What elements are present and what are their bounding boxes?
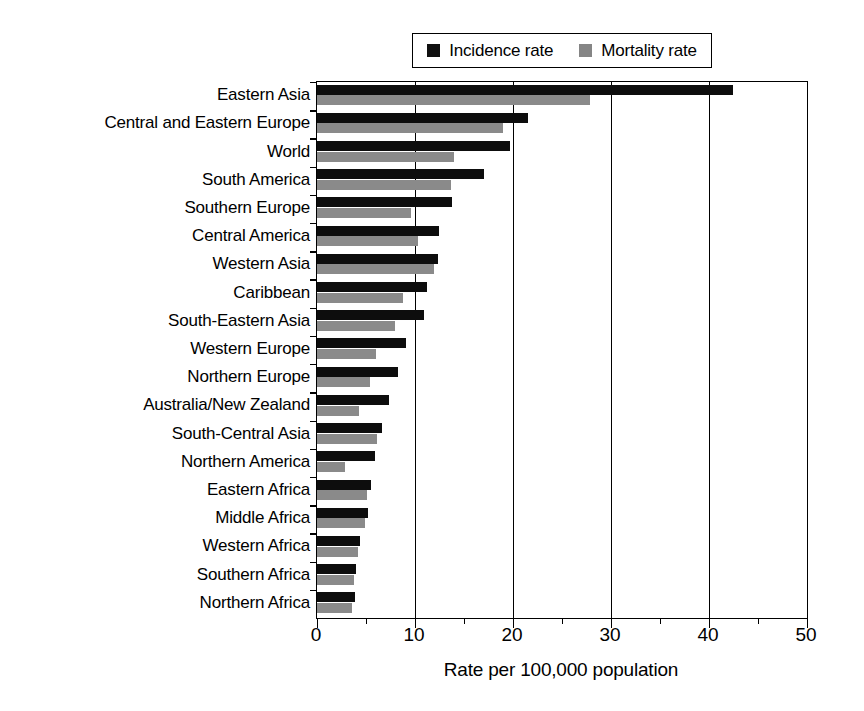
bar-mortality	[317, 547, 358, 557]
bar-group	[317, 251, 807, 279]
y-axis-label-south-eastern-asia: South-Eastern Asia	[10, 312, 310, 329]
y-axis-label-southern-africa: Southern Africa	[10, 566, 310, 583]
y-axis-tick	[310, 223, 317, 224]
x-axis-tick-label: 0	[286, 625, 346, 644]
y-axis-tick	[310, 336, 317, 337]
bar-mortality	[317, 490, 367, 500]
bar-group	[317, 505, 807, 533]
x-axis-tick-minor	[562, 618, 563, 624]
y-axis-tick	[310, 449, 317, 450]
y-axis-tick	[310, 392, 317, 393]
x-axis-tick-label: 50	[776, 625, 836, 644]
x-axis-tick-label: 20	[482, 625, 542, 644]
bar-incidence	[317, 113, 528, 123]
bar-incidence	[317, 197, 452, 207]
y-axis-tick	[310, 533, 317, 534]
bar-incidence	[317, 508, 368, 518]
y-axis-tick	[310, 308, 317, 309]
y-axis-tick	[310, 110, 317, 111]
bar-group	[317, 421, 807, 449]
y-axis-label-south-america: South America	[10, 171, 310, 188]
y-axis-tick	[310, 167, 317, 168]
y-axis-label-south-central-asia: South-Central Asia	[10, 425, 310, 442]
bar-group	[317, 308, 807, 336]
bar-group	[317, 138, 807, 166]
bar-group	[317, 392, 807, 420]
y-axis-label-eastern-asia: Eastern Asia	[10, 86, 310, 103]
bar-mortality	[317, 406, 359, 416]
y-axis-label-caribbean: Caribbean	[10, 284, 310, 301]
black-square-icon	[427, 44, 440, 57]
bar-group	[317, 223, 807, 251]
chart-legend: Incidence rate Mortality rate	[412, 33, 712, 68]
bar-mortality	[317, 377, 370, 387]
y-axis-label-western-africa: Western Africa	[10, 537, 310, 554]
bar-mortality	[317, 95, 590, 105]
y-axis-label-northern-europe: Northern Europe	[10, 368, 310, 385]
bar-incidence	[317, 226, 439, 236]
x-axis-tick-label: 10	[384, 625, 444, 644]
bar-mortality	[317, 264, 434, 274]
legend-label-mortality: Mortality rate	[601, 42, 696, 59]
bar-incidence	[317, 564, 356, 574]
x-axis-tick-label: 30	[580, 625, 640, 644]
bar-group	[317, 364, 807, 392]
bar-mortality	[317, 208, 411, 218]
bar-mortality	[317, 293, 403, 303]
bar-group	[317, 562, 807, 590]
bar-incidence	[317, 367, 398, 377]
y-axis-label-western-europe: Western Europe	[10, 340, 310, 357]
x-axis-title: Rate per 100,000 population	[316, 660, 806, 679]
bar-incidence	[317, 169, 484, 179]
y-axis-label-southern-europe: Southern Europe	[10, 199, 310, 216]
bar-group	[317, 279, 807, 307]
y-axis-labels: Eastern AsiaCentral and Eastern EuropeWo…	[5, 81, 310, 617]
y-axis-label-western-asia: Western Asia	[10, 255, 310, 272]
bar-group	[317, 336, 807, 364]
y-axis-label-middle-africa: Middle Africa	[10, 509, 310, 526]
bar-incidence	[317, 310, 424, 320]
bar-incidence	[317, 338, 406, 348]
x-axis-tick-label: 40	[678, 625, 738, 644]
bar-incidence	[317, 536, 360, 546]
plot-area	[316, 81, 808, 619]
bar-mortality	[317, 462, 345, 472]
y-axis-tick	[310, 82, 317, 83]
bar-mortality	[317, 575, 354, 585]
bar-incidence	[317, 423, 382, 433]
y-axis-tick	[310, 421, 317, 422]
bar-incidence	[317, 141, 510, 151]
legend-entry-mortality: Mortality rate	[579, 42, 696, 59]
y-axis-tick	[310, 364, 317, 365]
bar-mortality	[317, 518, 365, 528]
bar-mortality	[317, 152, 454, 162]
bar-mortality	[317, 236, 418, 246]
bar-group	[317, 477, 807, 505]
bar-group	[317, 533, 807, 561]
x-axis-tick-minor	[366, 618, 367, 624]
y-axis-label-australia-new-zealand: Australia/New Zealand	[10, 396, 310, 413]
bar-mortality	[317, 603, 352, 613]
bar-mortality	[317, 434, 377, 444]
bar-group	[317, 195, 807, 223]
y-axis-tick	[310, 279, 317, 280]
bar-mortality	[317, 123, 503, 133]
bar-mortality	[317, 349, 376, 359]
y-axis-label-world: World	[10, 143, 310, 160]
bar-incidence	[317, 592, 355, 602]
x-axis-tick-minor	[660, 618, 661, 624]
y-axis-label-northern-america: Northern America	[10, 453, 310, 470]
gray-square-icon	[579, 44, 592, 57]
y-axis-tick	[310, 138, 317, 139]
y-axis-label-northern-africa: Northern Africa	[10, 594, 310, 611]
x-axis-tick-minor	[464, 618, 465, 624]
bar-group	[317, 110, 807, 138]
legend-label-incidence: Incidence rate	[449, 42, 553, 59]
y-axis-tick	[310, 562, 317, 563]
y-axis-tick	[310, 590, 317, 591]
bar-mortality	[317, 180, 451, 190]
bar-incidence	[317, 282, 427, 292]
x-axis-tick-minor	[758, 618, 759, 624]
y-axis-tick	[310, 477, 317, 478]
bar-incidence	[317, 480, 371, 490]
